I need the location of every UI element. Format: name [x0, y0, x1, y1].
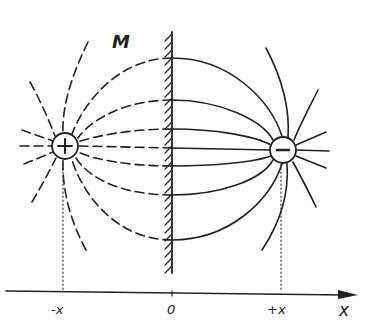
mirror-plane	[165, 32, 172, 273]
tick-label-zero: 0	[167, 302, 175, 317]
real-charge	[52, 133, 78, 159]
mirror-hatching	[165, 34, 172, 273]
x-axis	[6, 290, 358, 299]
axis-label-x: x	[338, 300, 350, 320]
tick-label-pos-x: +x	[267, 302, 286, 317]
real-field-lines	[20, 42, 172, 250]
image-charge-diagram: M -x 0 +x x	[0, 0, 377, 326]
mirror-label: M	[112, 31, 130, 52]
image-charge	[270, 137, 296, 163]
tick-label-neg-x: -x	[51, 302, 64, 317]
axis-arrow-icon	[338, 290, 358, 299]
image-field-lines	[172, 48, 329, 250]
